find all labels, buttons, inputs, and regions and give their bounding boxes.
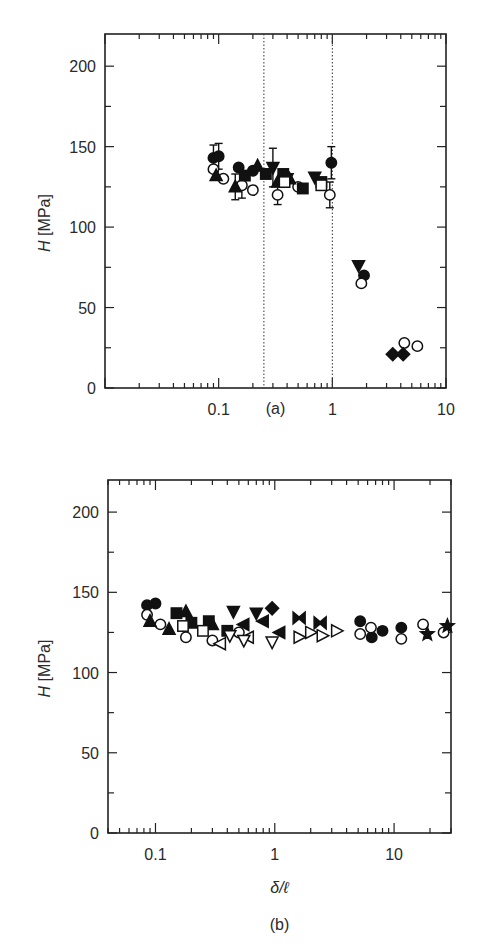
y-tick-label: 100 — [69, 219, 96, 236]
square-marker — [298, 183, 308, 193]
y-tick-label: 200 — [72, 504, 99, 521]
triangle-right-marker — [317, 630, 329, 642]
circle-marker — [181, 632, 191, 642]
circle-marker — [155, 619, 165, 629]
bowtie-marker — [293, 612, 305, 624]
square-marker — [240, 170, 250, 180]
series-triangle-right-open — [294, 625, 343, 643]
circle-marker — [355, 629, 365, 639]
square-marker — [261, 169, 271, 179]
square-marker — [279, 177, 289, 187]
chart-panel-a: 0.1110050100150200H [MPa](a) — [36, 34, 455, 418]
triangle-down-marker — [250, 608, 262, 620]
square-marker — [204, 616, 214, 626]
plot-frame — [108, 480, 451, 833]
circle-marker — [272, 190, 282, 200]
circle-marker — [356, 278, 366, 288]
circle-marker — [396, 622, 406, 632]
y-tick-label: 200 — [69, 58, 96, 75]
triangle-down-marker — [266, 637, 278, 649]
x-tick-label: 10 — [385, 846, 403, 863]
circle-marker — [412, 341, 422, 351]
y-tick-label: 0 — [90, 825, 99, 842]
figure: 0.1110050100150200H [MPa](a) 0.111005010… — [0, 0, 481, 946]
series-diamond-filled — [266, 602, 279, 615]
diamond-marker — [266, 602, 279, 615]
circle-marker — [248, 185, 258, 195]
x-tick-label: 1 — [328, 401, 337, 418]
x-tick-label: 10 — [437, 401, 455, 418]
y-tick-label: 50 — [81, 745, 99, 762]
circle-marker — [150, 598, 160, 608]
circle-marker — [366, 622, 376, 632]
y-axis-title: H [MPa] — [36, 640, 53, 698]
diamond-marker — [397, 348, 410, 361]
triangle-right-marker — [332, 625, 344, 637]
square-marker — [178, 621, 188, 631]
square-marker — [198, 626, 208, 636]
circle-marker — [213, 151, 223, 161]
series-circle-filled — [208, 143, 369, 280]
x-axis-title: δ/ℓ — [270, 879, 289, 896]
square-marker — [316, 180, 326, 190]
circle-marker — [326, 158, 336, 168]
triangle-right-marker — [294, 631, 306, 643]
series-diamond-filled — [386, 348, 409, 361]
panel-label: (a) — [266, 400, 286, 417]
y-tick-label: 50 — [78, 300, 96, 317]
square-marker — [171, 608, 181, 618]
circle-marker — [396, 634, 406, 644]
y-tick-label: 150 — [72, 584, 99, 601]
triangle-down-marker — [227, 607, 239, 619]
y-tick-label: 150 — [69, 139, 96, 156]
y-tick-label: 0 — [87, 380, 96, 397]
x-tick-label: 0.1 — [144, 846, 166, 863]
circle-marker — [367, 632, 377, 642]
circle-marker — [377, 626, 387, 636]
plot-frame — [105, 34, 446, 388]
y-tick-label: 100 — [72, 665, 99, 682]
chart-panel-b: 0.1110050100150200H [MPa]δ/ℓ(b) — [36, 480, 454, 933]
series-triangle-down-filled — [267, 148, 365, 272]
bowtie-marker — [314, 617, 326, 629]
x-tick-label: 1 — [270, 846, 279, 863]
x-tick-label: 0.1 — [208, 401, 230, 418]
panel-label: (b) — [270, 916, 290, 933]
y-axis-title: H [MPa] — [36, 194, 53, 252]
series-bowtie-filled — [293, 612, 326, 629]
circle-marker — [355, 616, 365, 626]
series-triangle-down-filled — [227, 607, 262, 620]
circle-marker — [399, 338, 409, 348]
circle-marker — [325, 190, 335, 200]
